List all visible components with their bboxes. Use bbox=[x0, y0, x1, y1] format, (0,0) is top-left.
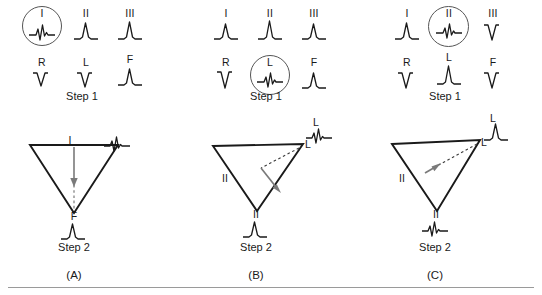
highlight-circle-lead-l bbox=[250, 55, 290, 95]
step2-label-b: Step 2 bbox=[196, 241, 316, 253]
lead-cell-b-r1-2: III bbox=[292, 8, 336, 43]
lead-label: L bbox=[64, 57, 108, 68]
lead-cell-c-r2-1: L bbox=[427, 52, 471, 87]
lead-label: R bbox=[204, 57, 248, 68]
lead-cell-a-r1-1: II bbox=[64, 8, 108, 43]
highlight-circle-lead-i bbox=[22, 6, 62, 46]
vertex-wave-c bbox=[481, 122, 513, 148]
vertex-wave-b bbox=[304, 126, 336, 152]
lead-cell-b-r1-1: II bbox=[248, 8, 292, 43]
ecg-wave-positive-icon bbox=[64, 19, 108, 43]
lead-label: I bbox=[385, 8, 429, 19]
lead-label: R bbox=[385, 57, 429, 68]
triangle-top-label-a: I bbox=[60, 134, 80, 146]
panel-letter-a: (A) bbox=[14, 269, 134, 281]
ecg-wave-positive-icon bbox=[385, 19, 429, 43]
ecg-wave-positive-icon bbox=[292, 68, 336, 92]
ecg-axis-figure: I II III R bbox=[0, 0, 542, 295]
lead-label: F bbox=[471, 57, 515, 68]
ecg-wave-negative-icon bbox=[204, 68, 248, 92]
ecg-wave-positive-icon bbox=[248, 19, 292, 43]
lead-cell-c-r1-0: I bbox=[385, 8, 429, 43]
lead-label: L bbox=[427, 52, 471, 63]
lead-label: III bbox=[292, 8, 336, 19]
panel-letter-b: (B) bbox=[196, 269, 316, 281]
ecg-wave-positive-icon bbox=[292, 19, 336, 43]
ecg-wave-negative-icon bbox=[64, 68, 108, 92]
lead-label: R bbox=[20, 57, 64, 68]
lead-label: I bbox=[204, 8, 248, 19]
lead-cell-c-r1-2: III bbox=[471, 8, 515, 43]
ecg-wave-negative-icon bbox=[471, 19, 515, 43]
lead-label: II bbox=[64, 8, 108, 19]
lead-label: F bbox=[292, 57, 336, 68]
lead-cell-a-r2-0: R bbox=[20, 57, 64, 92]
lead-cell-a-r1-2: III bbox=[108, 8, 152, 43]
lead-label: III bbox=[108, 8, 152, 19]
ecg-wave-positive-icon bbox=[427, 63, 471, 87]
step1-label-c: Step 1 bbox=[385, 90, 505, 102]
lead-cell-b-r2-0: R bbox=[204, 57, 248, 92]
panel-c: I II III R bbox=[361, 0, 542, 295]
lead-cell-c-r2-2: F bbox=[471, 57, 515, 92]
lead-cell-b-r1-0: I bbox=[204, 8, 248, 43]
ecg-wave-positive-icon bbox=[108, 19, 152, 43]
panel-letter-c: (C) bbox=[375, 269, 495, 281]
lead-label: II bbox=[248, 8, 292, 19]
lead-label: F bbox=[108, 54, 152, 65]
ecg-wave-negative-icon bbox=[20, 68, 64, 92]
bottom-divider bbox=[8, 287, 534, 288]
triangle-side-label-b: II bbox=[215, 172, 235, 184]
step1-label-b: Step 1 bbox=[206, 90, 326, 102]
highlight-circle-lead-ii bbox=[428, 6, 469, 47]
lead-label: III bbox=[471, 8, 515, 19]
vertex-wave-a bbox=[102, 134, 134, 160]
ecg-wave-positive-icon bbox=[204, 19, 248, 43]
step2-label-c: Step 2 bbox=[375, 241, 495, 253]
lead-cell-a-r2-1: L bbox=[64, 57, 108, 92]
step1-label-a: Step 1 bbox=[22, 90, 142, 102]
ecg-wave-negative-icon bbox=[385, 68, 429, 92]
panel-b: I II III R bbox=[181, 0, 362, 295]
panel-a: I II III R bbox=[0, 0, 181, 295]
step2-label-a: Step 2 bbox=[14, 241, 134, 253]
ecg-wave-positive-icon bbox=[108, 65, 152, 89]
triangle-side-label-c: II bbox=[392, 172, 412, 184]
lead-cell-c-r2-0: R bbox=[385, 57, 429, 92]
ecg-wave-negative-icon bbox=[471, 68, 515, 92]
lead-cell-a-r2-2: F bbox=[108, 54, 152, 89]
lead-cell-b-r2-2: F bbox=[292, 57, 336, 92]
